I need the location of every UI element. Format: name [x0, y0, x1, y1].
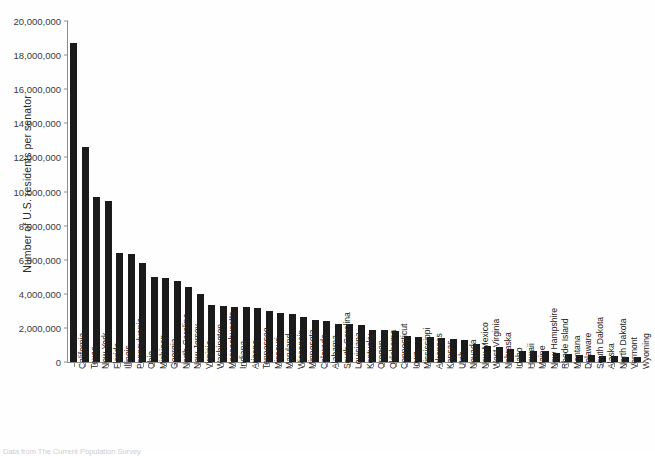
- x-tick-mark: [407, 363, 408, 367]
- x-tick-mark: [384, 363, 385, 367]
- y-tick-label: 2,000,000: [19, 322, 64, 333]
- x-tick-mark: [223, 363, 224, 367]
- x-tick-mark: [580, 363, 581, 367]
- x-tick-mark: [373, 363, 374, 367]
- x-tick-mark: [626, 363, 627, 367]
- y-tick-label: 12,000,000: [13, 152, 64, 163]
- x-tick-mark: [212, 363, 213, 367]
- y-tick-label: 8,000,000: [19, 220, 64, 231]
- x-tick-mark: [200, 363, 201, 367]
- bar: [70, 43, 77, 362]
- x-tick-mark: [246, 363, 247, 367]
- x-tick-mark: [350, 363, 351, 367]
- x-tick-mark: [603, 363, 604, 367]
- x-tick-label: Wyoming: [641, 333, 651, 369]
- x-tick-mark: [177, 363, 178, 367]
- x-tick-mark: [534, 363, 535, 367]
- y-tick-label: 16,000,000: [13, 84, 64, 95]
- x-tick-label: West Virginia: [491, 319, 501, 369]
- x-tick-mark: [281, 363, 282, 367]
- x-tick-label: South Dakota: [595, 317, 605, 369]
- x-tick-label: Massachusetts: [227, 312, 237, 369]
- y-tick-label: 18,000,000: [13, 50, 64, 61]
- x-tick-mark: [166, 363, 167, 367]
- x-tick-mark: [396, 363, 397, 367]
- x-tick-mark: [338, 363, 339, 367]
- bar: [151, 277, 158, 362]
- x-axis-categories: CaliforniaTexasNew YorkFloridaIllinoisPe…: [68, 363, 643, 453]
- x-tick-mark: [465, 363, 466, 367]
- x-tick-mark: [327, 363, 328, 367]
- x-tick-mark: [258, 363, 259, 367]
- y-tick: 10,000,000: [13, 186, 68, 197]
- x-tick-label: Rhode Island: [560, 318, 570, 369]
- y-tick: 2,000,000: [19, 322, 68, 333]
- x-tick-mark: [419, 363, 420, 367]
- y-tick: 0: [56, 357, 68, 368]
- x-tick-mark: [511, 363, 512, 367]
- y-tick: 8,000,000: [19, 220, 68, 231]
- x-tick-mark: [269, 363, 270, 367]
- y-tick-label: 20,000,000: [13, 16, 64, 27]
- y-tick-label: 10,000,000: [13, 186, 64, 197]
- y-tick: 18,000,000: [13, 50, 68, 61]
- x-tick-label: South Carolina: [342, 312, 352, 369]
- y-tick: 6,000,000: [19, 254, 68, 265]
- x-tick-mark: [85, 363, 86, 367]
- x-tick-mark: [108, 363, 109, 367]
- x-tick-label: North Dakota: [618, 318, 628, 369]
- bar: [82, 147, 89, 362]
- x-tick-mark: [476, 363, 477, 367]
- y-tick-label: 14,000,000: [13, 118, 64, 129]
- x-tick-mark: [545, 363, 546, 367]
- y-tick: 12,000,000: [13, 152, 68, 163]
- x-tick-mark: [361, 363, 362, 367]
- x-tick-mark: [568, 363, 569, 367]
- x-tick-label: Pennsylvania: [135, 318, 145, 369]
- x-tick-label: New Hampshire: [549, 308, 559, 369]
- y-tick: 16,000,000: [13, 84, 68, 95]
- x-tick-mark: [488, 363, 489, 367]
- y-tick-label: 6,000,000: [19, 254, 64, 265]
- x-tick-mark: [74, 363, 75, 367]
- y-tick-label: 4,000,000: [19, 288, 64, 299]
- x-tick-mark: [131, 363, 132, 367]
- x-tick-mark: [522, 363, 523, 367]
- x-tick-mark: [453, 363, 454, 367]
- x-tick-mark: [154, 363, 155, 367]
- x-tick-mark: [591, 363, 592, 367]
- x-tick-mark: [637, 363, 638, 367]
- x-tick-mark: [557, 363, 558, 367]
- x-tick-mark: [120, 363, 121, 367]
- x-tick-mark: [315, 363, 316, 367]
- x-tick-mark: [499, 363, 500, 367]
- x-tick-label: North Carolina: [181, 314, 191, 369]
- y-tick: 20,000,000: [13, 16, 68, 27]
- x-tick-label: New Mexico: [480, 322, 490, 369]
- source-note: Data from The Current Population Survey: [3, 447, 141, 456]
- x-tick-mark: [97, 363, 98, 367]
- x-tick-mark: [189, 363, 190, 367]
- x-tick-mark: [304, 363, 305, 367]
- x-tick-mark: [292, 363, 293, 367]
- x-tick-mark: [442, 363, 443, 367]
- y-tick: 14,000,000: [13, 118, 68, 129]
- x-tick-mark: [235, 363, 236, 367]
- x-tick-mark: [430, 363, 431, 367]
- x-tick-mark: [614, 363, 615, 367]
- y-tick: 4,000,000: [19, 288, 68, 299]
- x-tick-mark: [143, 363, 144, 367]
- y-tick-label: 0: [56, 357, 64, 368]
